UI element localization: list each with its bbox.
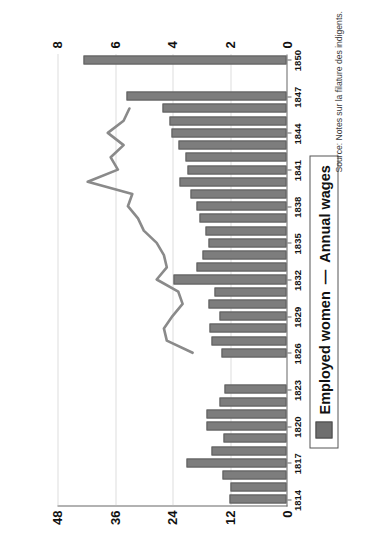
legend-label-annual-wages: Annual wages	[316, 165, 332, 263]
employed-women-tick-label: 2	[222, 26, 237, 48]
year-label: 1826	[291, 343, 302, 364]
year-label: 1829	[291, 306, 302, 327]
year-tick-mark	[287, 316, 291, 317]
year-tick-mark	[287, 279, 291, 280]
chart-canvas: Annual wages in francs Employed women (T…	[0, 0, 373, 534]
employed-women-tick-label: 0	[279, 26, 294, 48]
wage-tick-label: 48	[49, 510, 64, 532]
wage-tick-label: 0	[279, 510, 294, 532]
year-label: 1832	[291, 269, 302, 290]
year-label: 1847	[291, 86, 302, 107]
wage-tick-label: 36	[107, 510, 122, 532]
plot-area	[57, 54, 287, 506]
year-tick-mark	[287, 169, 291, 170]
line-series-employed-women	[57, 53, 287, 505]
figure-body: Annual wages in francs Employed women (T…	[0, 0, 373, 534]
legend: Employed women — Annual wages	[309, 155, 338, 448]
year-tick-mark	[287, 96, 291, 97]
year-tick-mark	[287, 462, 291, 463]
year-tick-mark	[287, 352, 291, 353]
wage-tick-label: 12	[222, 510, 237, 532]
year-label: 1844	[291, 123, 302, 144]
wage-tick-label: 24	[164, 510, 179, 532]
year-tick-mark	[287, 206, 291, 207]
year-tick-mark	[287, 389, 291, 390]
year-label: 1817	[291, 453, 302, 474]
year-tick-mark	[287, 132, 291, 133]
year-label: 1850	[291, 50, 302, 71]
legend-swatch-employed-women	[315, 421, 332, 438]
year-label: 1835	[291, 233, 302, 254]
employed-women-tick-label: 8	[49, 26, 64, 48]
year-label: 1841	[291, 159, 302, 180]
year-tick-mark	[287, 499, 291, 500]
year-tick-mark	[287, 242, 291, 243]
year-label: 1823	[291, 379, 302, 400]
year-tick-mark	[287, 59, 291, 60]
year-label: 1820	[291, 416, 302, 437]
year-label: 1814	[291, 489, 302, 510]
year-tick-mark	[287, 426, 291, 427]
employed-women-tick-label: 4	[164, 26, 179, 48]
rotated-figure: Annual wages in francs Employed women (T…	[0, 0, 373, 534]
legend-label-employed-women: Employed women	[316, 291, 332, 414]
legend-line-dash: —	[316, 269, 332, 284]
employed-women-tick-label: 6	[107, 26, 122, 48]
source-note: Source: Notes sur la filature des indige…	[333, 11, 343, 172]
line-path	[87, 108, 192, 352]
year-label: 1838	[291, 196, 302, 217]
